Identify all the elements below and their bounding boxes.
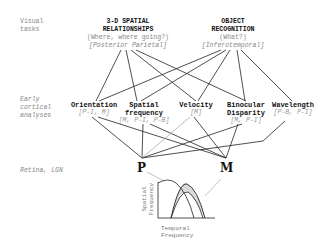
row-label-line: cortical	[20, 104, 51, 112]
task-title: RELATIONSHIPS	[82, 26, 174, 34]
analysis-pathways: [M, P-I, P-B]	[118, 117, 170, 125]
task-title: RECOGNITION	[198, 26, 268, 34]
channel-m: M	[220, 161, 233, 175]
task-subtitle: (Where, where going?)	[82, 34, 174, 42]
row-label-retina: Retina, LGN	[20, 167, 63, 175]
analysis-wavelength: Wavelength [P-B, P-I]	[268, 101, 318, 117]
axis-label-line: Temporal	[161, 225, 193, 232]
row-label-visual-tasks: Visual tasks	[20, 18, 43, 34]
link-spatial-velocity	[131, 50, 196, 101]
analysis-binocular-disparity: Binocular Disparity [M, P-I]	[222, 101, 270, 125]
analysis-title: Binocular	[222, 101, 270, 109]
task-spatial-relationships: 3-D SPATIAL RELATIONSHIPS (Where, where …	[82, 18, 174, 50]
row-label-line: Early	[20, 96, 51, 104]
analysis-spatial-frequency: Spatial frequency [M, P-I, P-B]	[118, 101, 170, 125]
task-area: [Inferotemporal]	[198, 42, 268, 50]
analysis-title: frequency	[118, 109, 170, 117]
analysis-title: Spatial	[118, 101, 170, 109]
axis-label-line: Spatial	[141, 179, 148, 219]
link-object-binocular	[237, 50, 245, 101]
x-axis-label: Temporal Frequency	[161, 225, 193, 239]
row-label-line: analyses	[20, 112, 51, 120]
row-label-early-cortical: Early cortical analyses	[20, 96, 51, 120]
task-object-recognition: OBJECT RECOGNITION (What?) [Inferotempor…	[198, 18, 268, 50]
analysis-title: Wavelength	[268, 101, 318, 109]
analysis-orientation: Orientation [P-I, M]	[66, 101, 122, 117]
analysis-title: Orientation	[66, 101, 122, 109]
analysis-pathways: [P-B, P-I]	[268, 109, 318, 117]
task-title: 3-D SPATIAL	[82, 18, 174, 26]
analysis-pathways: [P-I, M]	[66, 109, 122, 117]
y-axis-label: Spatial Frequency	[141, 179, 155, 219]
row-label-line: tasks	[20, 26, 43, 34]
analysis-pathways: [M, P-I]	[222, 117, 270, 125]
task-subtitle: (What?)	[198, 34, 268, 42]
analysis-pathways: [M]	[174, 109, 218, 117]
analysis-title: Velocity	[174, 101, 218, 109]
link-spatial-spatialfreq	[126, 50, 137, 101]
analysis-velocity: Velocity [M]	[174, 101, 218, 117]
task-area: [Posterior Parietal]	[82, 42, 174, 50]
link-object-spatialfreq	[141, 50, 226, 101]
analysis-title: Disparity	[222, 109, 270, 117]
link-object-wavelength	[241, 50, 292, 101]
row-label-line: Visual	[20, 18, 43, 26]
axis-label-line: Frequency	[161, 232, 193, 239]
task-title: OBJECT	[198, 18, 268, 26]
link-spatial-binocular	[136, 50, 246, 101]
axis-label-line: Frequency	[148, 179, 155, 219]
frequency-graph	[158, 180, 215, 218]
channel-p: P	[137, 161, 146, 175]
